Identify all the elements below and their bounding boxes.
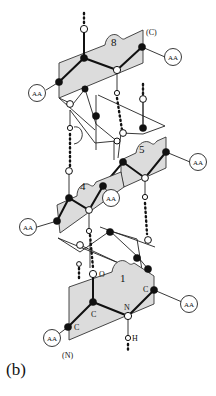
peptide-plane-8: 8	[59, 29, 143, 98]
svg-text:AA: AA	[23, 224, 33, 232]
svg-text:AA: AA	[47, 335, 57, 343]
side-chain-aa-bottom-left: AA	[44, 330, 61, 347]
n-terminus-label: (N)	[62, 351, 73, 360]
oxygen-label: O	[99, 270, 105, 279]
svg-text:AA: AA	[193, 159, 203, 167]
c-terminus-label: (C)	[146, 28, 157, 37]
alpha-carbon-label-right: C	[143, 285, 148, 294]
figure-caption: (b)	[6, 360, 26, 380]
plane-number-4: 4	[80, 180, 86, 192]
side-chain-aa-mid-center: AA	[103, 190, 120, 207]
plane-number-5: 5	[139, 143, 145, 155]
alpha-carbon-label-left: C	[74, 323, 79, 332]
svg-text:AA: AA	[184, 301, 194, 309]
side-chain-aa-top-right: AA	[165, 49, 182, 66]
svg-text:AA: AA	[106, 195, 116, 203]
side-chain-aa-mid-right: AA	[190, 154, 207, 171]
svg-text:AA: AA	[32, 90, 42, 98]
side-chain-aa-bottom-right: AA	[181, 296, 198, 313]
side-chain-loop	[74, 127, 82, 144]
peptide-plane-1: 1	[68, 261, 154, 340]
carbonyl-carbon-label: C	[91, 310, 96, 319]
plane-number-1: 1	[120, 272, 126, 284]
svg-text:AA: AA	[168, 54, 178, 62]
plane-number-8: 8	[111, 36, 117, 48]
side-chain-aa-top-left: AA	[29, 85, 46, 102]
nitrogen-label: N	[124, 303, 130, 312]
side-chain-aa-mid-left: AA	[20, 219, 37, 236]
alpha-helix-diagram: 8 5 4 1	[0, 0, 216, 396]
hydrogen-label: H	[132, 334, 138, 343]
